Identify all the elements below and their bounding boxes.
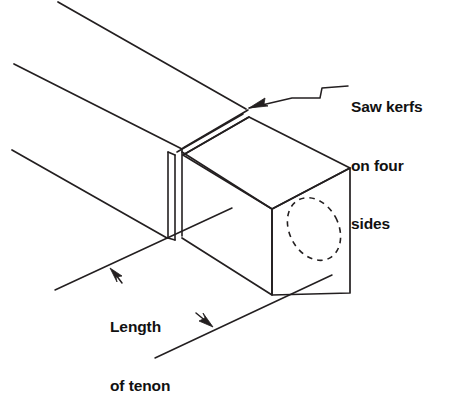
saw-kerfs-label-line-3: sides bbox=[351, 214, 422, 234]
kerf-side-cap-top bbox=[168, 152, 175, 155]
tenon-length-dimension-lines bbox=[55, 208, 332, 358]
beam-edges bbox=[12, 2, 246, 238]
saw-kerf-top bbox=[177, 110, 249, 155]
beam-bottom-edge bbox=[12, 150, 167, 238]
saw-kerfs-arrowhead bbox=[249, 98, 268, 108]
length-of-tenon-label-line-1: Length bbox=[110, 317, 170, 337]
tenon-front-face bbox=[272, 168, 350, 295]
saw-kerfs-label-line-1: Saw kerfs bbox=[351, 97, 422, 117]
tenon-block bbox=[182, 117, 350, 295]
length-arrow-lower-head bbox=[199, 313, 213, 327]
kerf-top-line-b bbox=[183, 110, 248, 148]
length-of-tenon-label: Length of tenon bbox=[110, 278, 170, 395]
saw-kerf-side bbox=[168, 150, 182, 240]
beam-middle-edge bbox=[14, 64, 182, 149]
beam-top-edge bbox=[58, 2, 246, 109]
saw-kerfs-label: Saw kerfs on four sides bbox=[351, 58, 422, 273]
tenon-left-face bbox=[182, 152, 272, 295]
kerf-side-cap-bottom bbox=[168, 238, 175, 240]
tenon-top-face bbox=[183, 117, 350, 209]
dimension-extension-lower bbox=[155, 275, 332, 358]
saw-kerfs-label-line-2: on four bbox=[351, 156, 422, 176]
length-of-tenon-label-line-2: of tenon bbox=[110, 376, 170, 395]
